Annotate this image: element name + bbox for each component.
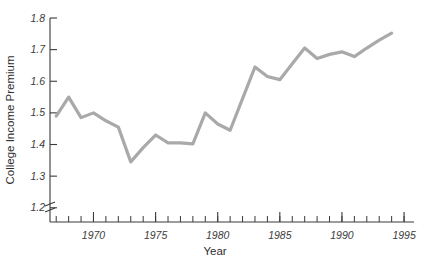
x-tick-label: 1995 [392,229,416,241]
y-tick-label: 1.7 [30,43,46,55]
x-tick-label: 1980 [206,229,230,241]
x-axis: 197019751980198519901995 [50,212,416,241]
y-axis-ticks [50,18,57,208]
y-axis-tick-labels: 1.21.31.41.51.61.71.8 [30,12,46,214]
x-axis-title: Year [203,245,226,257]
y-tick-label: 1.8 [30,12,45,24]
y-tick-label: 1.4 [30,138,45,150]
y-axis-title: College Income Premium [4,55,16,184]
x-axis-tick-labels: 197019751980198519901995 [82,229,416,241]
x-tick-label: 1985 [268,229,292,241]
line-chart: 1.21.31.41.51.61.71.8 197019751980198519… [0,0,421,267]
data-series-line [56,33,391,162]
x-axis-major-ticks [93,212,404,222]
y-axis: 1.21.31.41.51.61.71.8 [30,12,57,222]
y-tick-label: 1.3 [30,170,45,182]
y-tick-label: 1.5 [30,106,45,118]
y-tick-label: 1.2 [30,201,45,213]
y-tick-label: 1.6 [30,75,45,87]
chart-container: 1.21.31.41.51.61.71.8 197019751980198519… [0,0,421,267]
x-tick-label: 1970 [82,229,106,241]
x-tick-label: 1975 [144,229,168,241]
x-tick-label: 1990 [330,229,354,241]
x-axis-minor-ticks [56,216,404,222]
